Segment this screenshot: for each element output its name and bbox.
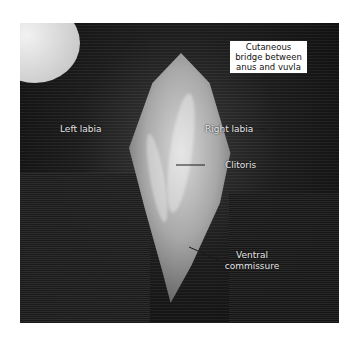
label-clitoris: Clitoris <box>225 160 256 171</box>
label-ventral-line1: Ventral <box>222 250 282 261</box>
callout-cutaneous-bridge: Cutaneous bridge between anus and vuvla <box>230 41 307 73</box>
label-ventral-commissure: Ventral commissure <box>222 250 282 272</box>
label-ventral-line2: commissure <box>222 261 282 272</box>
callout-text: Cutaneous bridge between anus and vuvla <box>235 42 302 72</box>
hair-texture-left <box>20 173 150 323</box>
label-right-labia: Right labia <box>205 124 253 135</box>
label-left-labia: Left labia <box>60 124 102 135</box>
white-sheet-corner <box>20 23 80 83</box>
